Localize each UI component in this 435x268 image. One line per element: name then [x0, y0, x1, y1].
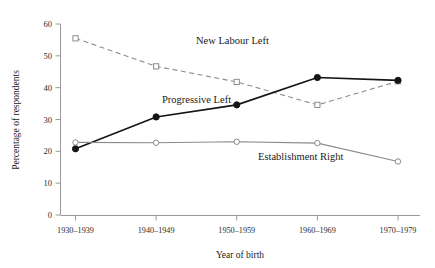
y-tick-label: 10 [44, 178, 53, 188]
data-point-marker [234, 102, 240, 108]
data-point-marker [153, 114, 159, 120]
y-tick-label: 40 [44, 83, 53, 93]
x-axis-title: Year of birth [216, 250, 264, 260]
data-point-marker [154, 64, 159, 69]
data-point-marker [72, 146, 78, 152]
x-tick-label: 1930–1939 [57, 226, 94, 235]
y-tick-label: 50 [44, 51, 53, 61]
y-tick-label: 0 [48, 210, 52, 220]
x-tick-label: 1960–1969 [299, 226, 336, 235]
y-axis-title: Percentage of respondents [11, 70, 21, 170]
x-tick-label: 1940–1949 [138, 226, 175, 235]
y-tick-label: 60 [44, 19, 53, 29]
data-point-marker [234, 79, 239, 84]
data-point-marker [395, 159, 400, 164]
data-point-marker [315, 102, 320, 107]
line-chart: 0102030405060 1930–19391940–19491950–195… [0, 0, 435, 268]
data-point-marker [314, 74, 320, 80]
y-tick-label: 20 [44, 146, 53, 156]
x-tick-label: 1970–1979 [380, 226, 417, 235]
data-point-marker [234, 139, 239, 144]
data-point-marker [153, 140, 158, 145]
data-point-marker [395, 77, 401, 83]
series-label-new-labour-left: New Labour Left [196, 35, 269, 46]
series-label-progressive-left: Progressive Left [162, 94, 231, 105]
series-label-establishment-right: Establishment Right [258, 151, 344, 162]
data-point-marker [73, 36, 78, 41]
x-tick-label: 1950–1959 [218, 226, 255, 235]
data-point-marker [73, 140, 78, 145]
data-point-marker [315, 140, 320, 145]
chart-container: 0102030405060 1930–19391940–19491950–195… [0, 0, 435, 268]
y-tick-label: 30 [44, 115, 53, 125]
